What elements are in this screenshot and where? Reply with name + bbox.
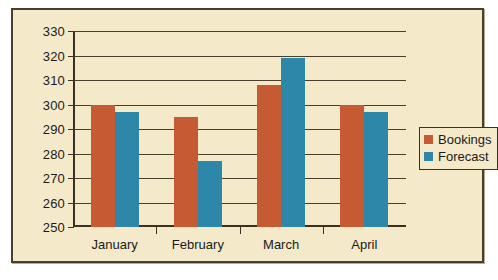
bar-forecast-march [281,58,305,227]
y-axis-tick-label: 260 [43,195,65,210]
y-tick-mark [68,105,74,106]
bar-forecast-january [115,112,139,227]
x-axis-label-january: January [92,237,138,252]
legend-label: Bookings [438,132,491,147]
y-axis-tick-label: 280 [43,146,65,161]
y-tick-mark [68,154,74,155]
bar-forecast-april [364,112,388,227]
x-axis-label-february: February [172,237,224,252]
y-axis-tick-label: 290 [43,122,65,137]
chart-frame: 250260270280290300310320330 JanuaryFebru… [11,8,484,263]
y-axis-tick-label: 330 [43,24,65,39]
plot-area: 250260270280290300310320330 JanuaryFebru… [73,31,406,227]
x-tick-mark [323,227,324,234]
y-tick-mark [68,178,74,179]
y-axis-tick-label: 270 [43,171,65,186]
legend-swatch-icon [424,152,433,161]
legend-swatch-icon [424,135,433,144]
x-axis-label-april: April [351,237,377,252]
bar-bookings-january [91,105,115,228]
y-axis-tick-label: 300 [43,97,65,112]
y-tick-mark [68,56,74,57]
y-axis-tick-label: 320 [43,48,65,63]
y-tick-mark [68,129,74,130]
legend-item-bookings[interactable]: Bookings [424,131,491,148]
bar-bookings-february [174,117,198,227]
legend-label: Forecast [438,149,489,164]
y-tick-mark [68,203,74,204]
bar-bookings-april [340,105,364,228]
y-axis-tick-label: 310 [43,73,65,88]
y-tick-mark [68,31,74,32]
y-tick-mark [68,80,74,81]
y-tick-mark [68,227,74,228]
bar-bookings-march [257,85,281,227]
x-tick-mark [156,227,157,234]
legend-item-forecast[interactable]: Forecast [424,148,491,165]
x-axis-label-march: March [263,237,299,252]
gridline [73,31,406,32]
y-axis-tick-label: 250 [43,220,65,235]
gridline [73,80,406,81]
bar-forecast-february [198,161,222,227]
x-tick-mark [240,227,241,234]
gridline [73,56,406,57]
chart-legend: BookingsForecast [419,127,498,170]
